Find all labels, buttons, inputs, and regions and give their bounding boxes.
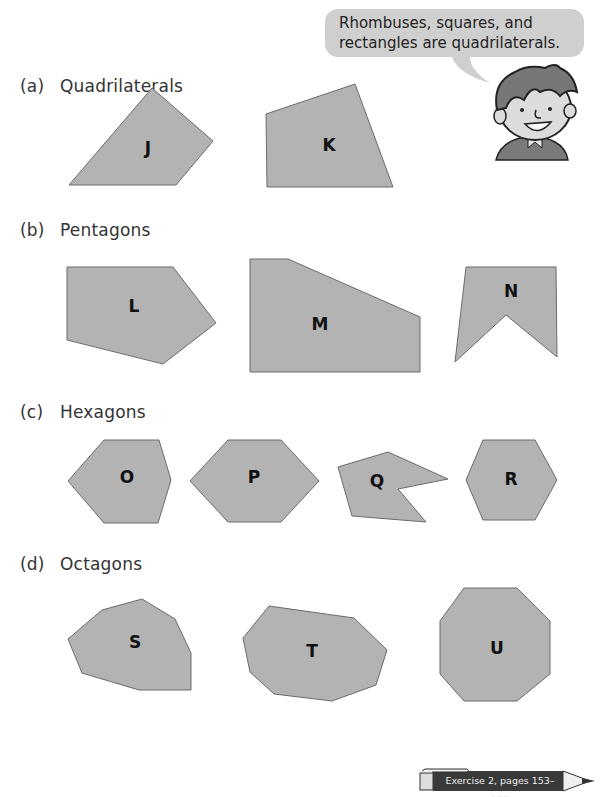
shape-m: M (250, 259, 420, 372)
shape-label-l: L (129, 296, 140, 316)
shape-s: S (68, 599, 191, 690)
shape-u: U (440, 588, 550, 701)
exercise-reference: Exercise 2, pages 153–155 (437, 771, 563, 790)
shape-label-s: S (129, 632, 141, 652)
shapes-canvas: J K L M N O P Q R S T U (0, 0, 609, 797)
speech-bubble-tail (452, 57, 490, 83)
shape-l: L (67, 267, 216, 364)
shape-label-t: T (306, 641, 318, 661)
shape-r: R (466, 440, 557, 520)
shape-j: J (69, 88, 213, 185)
shape-label-m: M (312, 314, 329, 334)
shape-label-j: J (144, 138, 151, 158)
shape-label-u: U (490, 638, 504, 658)
boy-character-illustration (494, 65, 577, 160)
shape-n: N (455, 267, 557, 362)
shape-label-p: P (248, 467, 260, 487)
shape-q: Q (338, 452, 448, 522)
shape-k: K (266, 84, 393, 187)
shape-o: O (68, 440, 171, 523)
shape-t: T (243, 606, 387, 701)
shape-label-r: R (504, 469, 517, 489)
shape-label-k: K (322, 135, 336, 155)
shape-p: P (190, 440, 319, 522)
shape-label-o: O (120, 467, 134, 487)
shape-label-q: Q (370, 471, 384, 491)
shape-label-n: N (504, 281, 518, 301)
